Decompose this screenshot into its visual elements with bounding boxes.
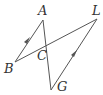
label-a: A [38,4,47,17]
label-g: G [57,80,67,93]
parallel-arrow-icon [71,50,77,57]
label-l: L [92,4,101,17]
geometry-diagram: A L B C G [0,0,103,95]
label-b: B [4,62,14,75]
label-c: C [37,49,47,62]
diagram-lines [0,0,103,95]
